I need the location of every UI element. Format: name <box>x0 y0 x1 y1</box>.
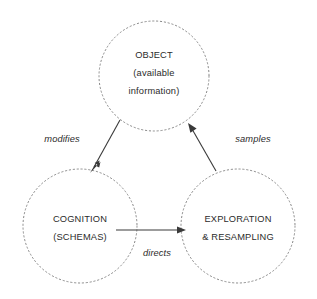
node-label-object-line2: (available <box>133 68 174 78</box>
edge-label-modifies: modifies <box>44 134 80 144</box>
node-label-object-line3: information) <box>129 86 180 96</box>
node-label-exploration-line2: & RESAMPLING <box>202 232 274 242</box>
node-circle-exploration <box>181 169 295 283</box>
edge-modifies <box>90 120 120 173</box>
edge-samples-arrowhead <box>188 123 197 133</box>
edge-samples <box>188 123 216 171</box>
node-circle-cognition <box>23 169 137 283</box>
edge-modifies-line <box>94 120 120 167</box>
edge-label-directs: directs <box>143 248 171 258</box>
diagram-canvas: OBJECT (available information) COGNITION… <box>0 0 317 299</box>
edge-samples-line <box>192 129 216 171</box>
node-label-cognition-line1: COGNITION <box>53 214 107 224</box>
edge-directs <box>116 226 186 233</box>
node-label-cognition-line2: (SCHEMAS) <box>53 232 107 242</box>
node-label-object-line1: OBJECT <box>135 50 173 60</box>
edge-label-samples: samples <box>235 134 271 144</box>
perceptual-cycle-diagram: OBJECT (available information) COGNITION… <box>0 0 317 299</box>
node-label-exploration-line1: EXPLORATION <box>204 214 271 224</box>
